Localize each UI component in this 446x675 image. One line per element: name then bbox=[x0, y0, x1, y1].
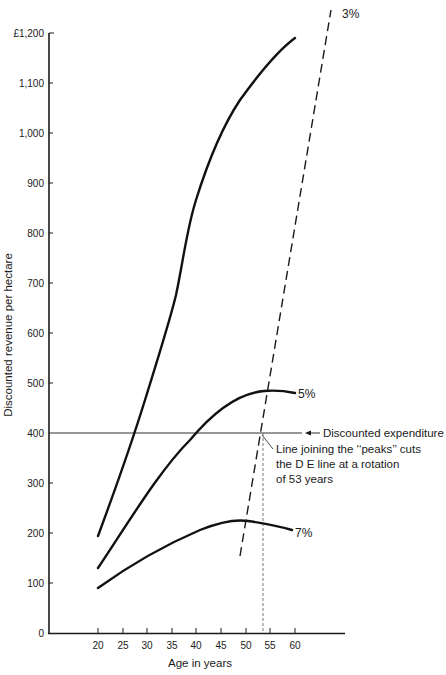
x-tick-label: 45 bbox=[215, 640, 227, 651]
x-axis-title: Age in years bbox=[168, 657, 232, 669]
x-tick-label: 30 bbox=[141, 640, 153, 651]
series-3-percent bbox=[98, 38, 295, 536]
x-tick-label: 20 bbox=[92, 640, 104, 651]
annotation-line-1: Line joining the ‘‘peaks’’ cuts bbox=[276, 443, 421, 455]
y-tick-label: 1,000 bbox=[19, 128, 44, 139]
series-5-percent bbox=[98, 391, 295, 568]
series-label-5-percent: 5% bbox=[298, 387, 316, 401]
y-tick-label: 200 bbox=[27, 528, 44, 539]
de-label: Discounted expenditure bbox=[323, 427, 444, 439]
y-tick-label: 800 bbox=[27, 228, 44, 239]
annotation-line-2: the D E line at a rotation bbox=[276, 458, 399, 470]
y-tick-label: 300 bbox=[27, 478, 44, 489]
de-arrowhead-icon bbox=[305, 431, 311, 436]
x-tick-label: 60 bbox=[289, 640, 301, 651]
y-tick-label: 900 bbox=[27, 178, 44, 189]
x-tick-label: 50 bbox=[240, 640, 252, 651]
chart: 0 100 200 300 400 500 600 700 800 900 1,… bbox=[0, 0, 446, 675]
x-tick-label: 25 bbox=[117, 640, 129, 651]
x-tick-label: 40 bbox=[190, 640, 202, 651]
y-tick-label: 0 bbox=[38, 628, 44, 639]
y-tick-label: £1,200 bbox=[13, 28, 44, 39]
y-tick-labels: 0 100 200 300 400 500 600 700 800 900 1,… bbox=[13, 28, 44, 639]
y-tick-label: 700 bbox=[27, 278, 44, 289]
y-tick-label: 400 bbox=[27, 428, 44, 439]
series-label-3-percent: 3% bbox=[342, 7, 360, 21]
y-tick-label: 100 bbox=[27, 578, 44, 589]
x-ticks bbox=[98, 628, 295, 633]
x-tick-label: 55 bbox=[264, 640, 276, 651]
annotation-pointer bbox=[262, 435, 273, 449]
x-tick-label: 35 bbox=[166, 640, 178, 651]
series-label-7-percent: 7% bbox=[295, 526, 313, 540]
y-tick-label: 500 bbox=[27, 378, 44, 389]
y-axis-title: Discounted revenue per hectare bbox=[2, 253, 14, 417]
y-tick-label: 1,100 bbox=[19, 78, 44, 89]
annotation-line-3: of 53 years bbox=[276, 473, 333, 485]
y-tick-label: 600 bbox=[27, 328, 44, 339]
x-tick-labels: 20 25 30 35 40 45 50 55 60 bbox=[92, 640, 301, 651]
